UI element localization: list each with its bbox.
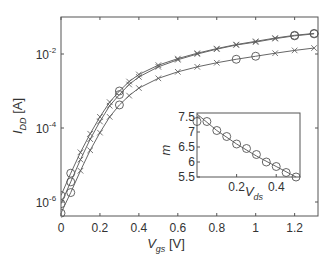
x-marker xyxy=(87,147,93,153)
inset-y-tick-label: 6 xyxy=(188,155,195,169)
x-marker xyxy=(78,150,84,156)
x-marker xyxy=(97,130,103,136)
x-marker xyxy=(126,82,132,88)
inset-y-tick-label: 6.5 xyxy=(178,140,195,154)
inset-x-axis-label: Vds xyxy=(245,184,264,202)
svg-text:-4: -4 xyxy=(49,120,57,129)
y-tick-label: 10 xyxy=(36,122,50,136)
svg-text:-6: -6 xyxy=(49,194,57,203)
x-marker xyxy=(78,157,84,163)
y-tick-label: 10 xyxy=(36,196,50,210)
svg-text:-2: -2 xyxy=(49,46,57,55)
x-marker xyxy=(78,168,84,174)
x-marker xyxy=(156,76,162,82)
chart: 00.20.40.60.811.210-610-410-2 0.20.45.56… xyxy=(0,0,332,269)
x-tick-label: 0.6 xyxy=(169,221,186,235)
x-tick-label: 0.4 xyxy=(131,221,148,235)
inset-plot: 0.20.45.566.577.5 xyxy=(178,110,300,194)
x-tick-label: 0.8 xyxy=(208,221,225,235)
inset-x-tick-label: 0.4 xyxy=(268,180,285,194)
y-tick-label: 10 xyxy=(36,48,50,62)
x-marker xyxy=(87,136,93,142)
x-marker xyxy=(107,114,113,120)
inset-x-tick-label: 0.2 xyxy=(228,180,245,194)
x-tick-label: 0.2 xyxy=(92,221,109,235)
x-axis-label: Vgs [V] xyxy=(147,236,185,254)
x-tick-label: 1.2 xyxy=(286,221,303,235)
y-axis-label: IDD [A] xyxy=(10,98,28,134)
inset-y-axis-label: m xyxy=(158,144,173,155)
inset-y-tick-label: 5.5 xyxy=(178,170,195,184)
x-tick-label: 1 xyxy=(252,221,259,235)
x-tick-label: 0 xyxy=(58,221,65,235)
x-marker xyxy=(97,119,103,125)
x-marker xyxy=(136,85,142,91)
inset-y-tick-label: 7 xyxy=(188,125,195,139)
x-marker xyxy=(126,93,132,99)
